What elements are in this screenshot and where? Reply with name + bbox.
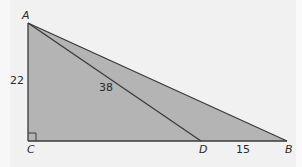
length-label-ac: 22: [10, 75, 24, 86]
length-label-ad: 38: [99, 82, 113, 93]
diagram-canvas: A C D B 22 38 15: [0, 0, 302, 167]
length-label-db: 15: [236, 144, 250, 155]
vertex-label-c: C: [27, 144, 35, 155]
triangle-figure: [0, 0, 302, 167]
vertex-label-d: D: [199, 144, 207, 155]
vertex-label-b: B: [285, 144, 293, 155]
vertex-label-a: A: [22, 10, 30, 21]
